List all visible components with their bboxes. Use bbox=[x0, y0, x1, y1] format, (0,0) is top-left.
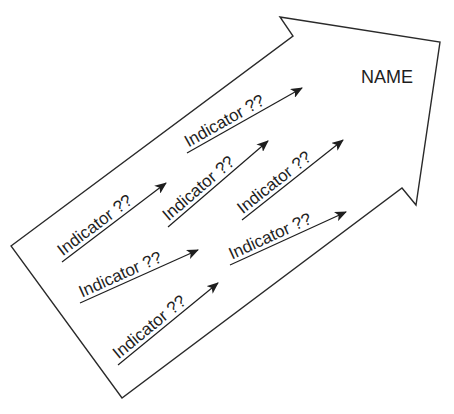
arrow-title: NAME bbox=[361, 67, 413, 87]
block-arrow-diagram: NAME Indicator ??Indicator ??Indicator ?… bbox=[0, 0, 454, 414]
